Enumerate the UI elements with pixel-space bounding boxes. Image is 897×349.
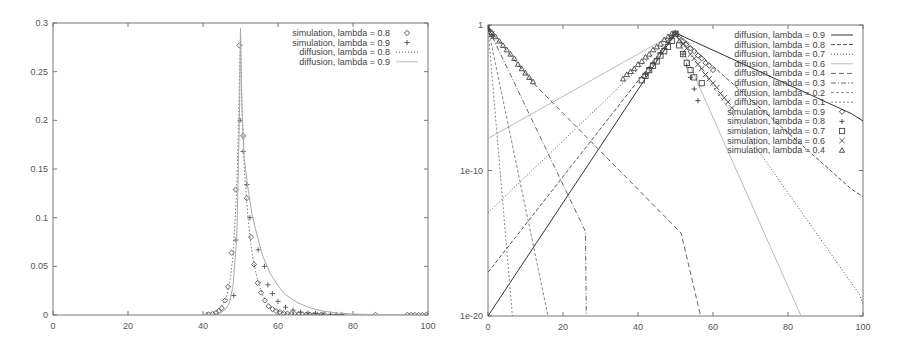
legend-label: simulation, lambda = 0.6 bbox=[727, 136, 825, 146]
plus-marker bbox=[695, 98, 700, 103]
legend-label: diffusion, lambda = 0.9 bbox=[734, 30, 825, 40]
x-tick-label: 80 bbox=[783, 322, 793, 332]
plus-marker bbox=[692, 86, 697, 91]
series-diffusion-lambda-0-2 bbox=[488, 28, 548, 316]
series-line bbox=[488, 28, 548, 316]
series-line bbox=[488, 28, 586, 316]
cross-marker bbox=[725, 100, 730, 105]
figure-stage: 02040608010000.050.10.150.20.250.3simula… bbox=[0, 0, 897, 349]
legend-label: diffusion, lambda = 0.3 bbox=[734, 78, 825, 88]
legend-label: diffusion, lambda = 0.7 bbox=[734, 49, 825, 59]
square-marker bbox=[699, 81, 704, 86]
y-tick-label: 1 bbox=[478, 20, 483, 30]
legend-label: simulation, lambda = 0.7 bbox=[727, 126, 825, 136]
series-diffusion-lambda-0-3 bbox=[488, 28, 586, 316]
plus-marker bbox=[688, 75, 693, 80]
y-tick-label: 1e-10 bbox=[460, 166, 483, 176]
cross-marker bbox=[714, 85, 719, 90]
cross-marker bbox=[692, 56, 697, 61]
series-simulation-lambda-0-8 bbox=[485, 27, 700, 103]
x-tick-label: 40 bbox=[633, 322, 643, 332]
legend-label: diffusion, lambda = 0.4 bbox=[734, 68, 825, 78]
right-chart-log-distribution: 0204060801001e-201e-101diffusion, lambda… bbox=[0, 0, 897, 349]
legend-label: diffusion, lambda = 0.2 bbox=[734, 88, 825, 98]
legend-cross-marker bbox=[839, 138, 844, 143]
legend-label: diffusion, lambda = 0.1 bbox=[734, 97, 825, 107]
legend-label: simulation, lambda = 0.9 bbox=[727, 107, 825, 117]
legend-square-marker bbox=[839, 128, 844, 133]
legend-label: diffusion, lambda = 0.8 bbox=[734, 40, 825, 50]
cross-marker bbox=[699, 66, 704, 71]
legend-plus-marker bbox=[839, 119, 844, 124]
x-tick-label: 0 bbox=[485, 322, 490, 332]
y-tick-label: 1e-20 bbox=[460, 311, 483, 321]
x-tick-label: 100 bbox=[855, 322, 870, 332]
legend-label: simulation, lambda = 0.4 bbox=[727, 145, 825, 155]
x-tick-label: 20 bbox=[558, 322, 568, 332]
x-tick-label: 60 bbox=[708, 322, 718, 332]
legend-label: diffusion, lambda = 0.6 bbox=[734, 59, 825, 69]
legend: diffusion, lambda = 0.9diffusion, lambda… bbox=[727, 30, 853, 155]
legend-label: simulation, lambda = 0.8 bbox=[727, 116, 825, 126]
legend-triangle-marker bbox=[839, 148, 844, 153]
series-simulation-lambda-0-4 bbox=[485, 25, 674, 84]
plus-marker bbox=[680, 52, 685, 57]
